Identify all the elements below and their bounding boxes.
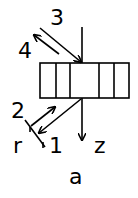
ray-4-arrow: [34, 35, 59, 54]
label-r-axis: r: [13, 133, 23, 158]
label-ray-2: 2: [11, 98, 25, 123]
label-ray-3: 3: [50, 5, 64, 30]
caption: a: [69, 164, 82, 189]
label-ray-1: 1: [49, 133, 63, 158]
label-ray-4: 4: [18, 38, 32, 63]
ray-1-arrow: [39, 99, 81, 133]
ray-diagram: 3 4 2 1 r z a: [0, 0, 138, 198]
r-axis-tick: [25, 120, 45, 147]
label-z-axis: z: [94, 133, 106, 158]
layer-block: [40, 63, 129, 98]
